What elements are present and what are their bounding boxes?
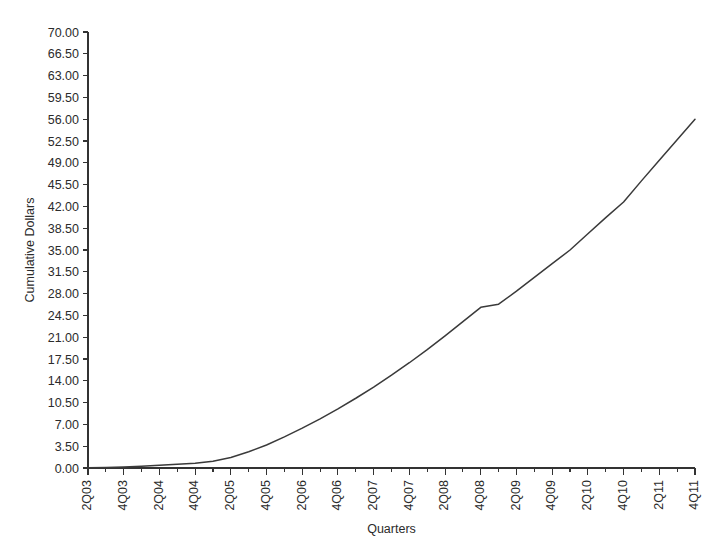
x-tick-label: 4Q05	[259, 480, 273, 511]
y-tick-label: 35.00	[48, 244, 79, 258]
chart-canvas: 0.003.507.0010.5014.0017.5021.0024.5028.…	[0, 0, 723, 550]
y-tick-label: 31.50	[48, 265, 79, 279]
y-axis: 0.003.507.0010.5014.0017.5021.0024.5028.…	[48, 26, 88, 476]
x-tick-label: 2Q10	[580, 480, 594, 511]
y-tick-label: 28.00	[48, 287, 79, 301]
x-tick-label: 2Q11	[652, 480, 666, 510]
x-tick-label: 2Q08	[437, 480, 451, 511]
x-tick-label: 4Q08	[473, 480, 487, 511]
x-axis-title: Quarters	[367, 522, 416, 536]
y-tick-label: 56.00	[48, 113, 79, 127]
y-tick-label: 66.50	[48, 47, 79, 61]
y-tick-label: 38.50	[48, 222, 79, 236]
x-tick-label: 4Q03	[116, 480, 130, 511]
x-tick-label: 2Q09	[509, 480, 523, 511]
y-tick-label: 49.00	[48, 156, 79, 170]
x-tick-label: 4Q07	[402, 480, 416, 511]
y-tick-label: 10.50	[48, 396, 79, 410]
x-tick-label: 2Q04	[152, 480, 166, 511]
x-tick-label: 4Q06	[330, 480, 344, 511]
y-axis-title: Cumulative Dollars	[23, 198, 37, 303]
x-tick-label: 2Q05	[223, 480, 237, 511]
y-tick-label: 59.50	[48, 91, 79, 105]
y-tick-label: 7.00	[55, 418, 79, 432]
x-tick-label: 4Q11	[687, 480, 701, 510]
y-tick-label: 17.50	[48, 353, 79, 367]
y-tick-label: 24.50	[48, 309, 79, 323]
y-tick-label: 45.50	[48, 178, 79, 192]
y-tick-label: 21.00	[48, 331, 79, 345]
y-tick-label: 70.00	[48, 26, 79, 40]
y-tick-label: 14.00	[48, 374, 79, 388]
x-tick-label: 4Q09	[544, 480, 558, 511]
line-chart: 0.003.507.0010.5014.0017.5021.0024.5028.…	[0, 0, 723, 550]
x-tick-label: 4Q04	[187, 480, 201, 511]
x-tick-label: 2Q06	[295, 480, 309, 511]
y-tick-label: 52.50	[48, 135, 79, 149]
y-tick-label: 3.50	[55, 440, 79, 454]
x-tick-label: 2Q03	[80, 480, 94, 511]
x-tick-label: 2Q07	[366, 480, 380, 511]
y-tick-label: 42.00	[48, 200, 79, 214]
series-line	[88, 119, 695, 467]
x-tick-label: 4Q10	[616, 480, 630, 511]
y-tick-label: 63.00	[48, 69, 79, 83]
x-axis: 2Q034Q032Q044Q042Q054Q052Q064Q062Q074Q07…	[80, 468, 701, 511]
y-tick-label: 0.00	[55, 462, 79, 476]
data-series-group	[88, 119, 695, 467]
